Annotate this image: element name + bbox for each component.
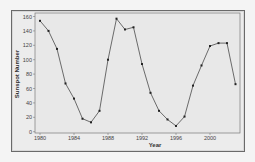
data-point xyxy=(209,45,211,47)
y-tick-label: 160 xyxy=(23,14,32,20)
x-tick-label: 1992 xyxy=(136,135,148,141)
line-chart: 020406080100120140160 198019841988199219… xyxy=(0,0,255,162)
y-tick-label: 120 xyxy=(23,42,32,48)
data-point xyxy=(184,116,186,118)
data-point xyxy=(90,121,92,123)
y-tick-label: 20 xyxy=(26,114,32,120)
data-point xyxy=(158,110,160,112)
x-axis-title: Year xyxy=(149,142,162,148)
data-point xyxy=(201,64,203,66)
data-point xyxy=(218,42,220,44)
y-axis: 020406080100120140160 xyxy=(23,14,35,135)
x-tick-label: 1996 xyxy=(170,135,182,141)
data-point xyxy=(150,92,152,94)
data-point xyxy=(39,20,41,22)
plot-area xyxy=(35,13,240,133)
y-axis-title: Sunspot Number xyxy=(14,49,20,98)
data-point xyxy=(235,83,237,85)
data-point xyxy=(226,42,228,44)
data-point xyxy=(107,59,109,61)
x-tick-label: 1984 xyxy=(68,135,80,141)
data-point xyxy=(175,125,177,127)
data-point xyxy=(167,118,169,120)
data-point xyxy=(141,63,143,65)
data-point xyxy=(82,118,84,120)
data-point xyxy=(192,85,194,87)
data-point xyxy=(48,30,50,32)
x-axis: 198019841988199219962000 xyxy=(34,133,216,141)
y-tick-label: 40 xyxy=(26,100,32,106)
data-point xyxy=(56,48,58,50)
x-tick-label: 1980 xyxy=(34,135,46,141)
x-tick-label: 2000 xyxy=(204,135,216,141)
data-point xyxy=(99,110,101,112)
y-tick-label: 60 xyxy=(26,86,32,92)
y-tick-label: 140 xyxy=(23,28,32,34)
data-point xyxy=(73,98,75,100)
y-tick-label: 0 xyxy=(29,129,32,135)
y-tick-label: 80 xyxy=(26,71,32,77)
x-tick-label: 1988 xyxy=(102,135,114,141)
data-point xyxy=(133,26,135,28)
data-point xyxy=(65,82,67,84)
data-point xyxy=(116,18,118,20)
data-point xyxy=(124,28,126,30)
y-tick-label: 100 xyxy=(23,57,32,63)
